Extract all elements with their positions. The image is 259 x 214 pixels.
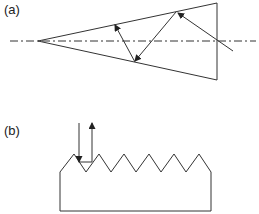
sawtooth-block: [60, 154, 211, 211]
ray-incoming: [178, 13, 233, 51]
diagram-canvas: [0, 0, 259, 214]
cone-bottom-edge: [38, 41, 217, 80]
figure: (a) (b): [0, 0, 259, 214]
ray-2: [115, 25, 135, 62]
panel-a-diagram: [10, 3, 256, 80]
panel-b-diagram: [60, 123, 211, 211]
